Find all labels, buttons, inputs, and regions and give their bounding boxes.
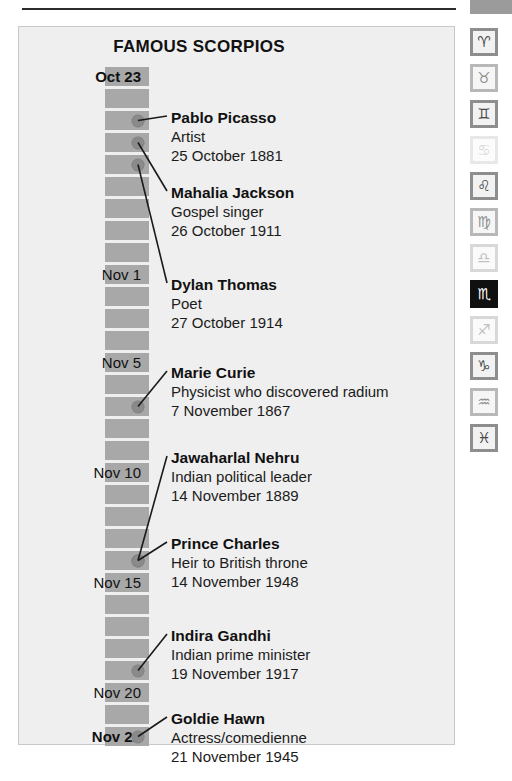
- scorpio-icon-glyph: ♏: [477, 287, 490, 302]
- entry-item: Mahalia JacksonGospel singer26 October 1…: [171, 183, 456, 240]
- top-right-corner-tab: [470, 0, 512, 14]
- sagittarius-icon-glyph: ♐: [477, 323, 490, 338]
- virgo-icon-glyph: ♍: [477, 215, 490, 230]
- famous-scorpios-panel: FAMOUS SCORPIOS Oct 23Nov 1Nov 5Nov 10No…: [18, 26, 455, 745]
- aquarius-icon-glyph: ♒: [477, 395, 490, 410]
- leo-icon-glyph: ♌: [477, 179, 490, 194]
- entry-date: 27 October 1914: [171, 313, 456, 332]
- date-axis: Oct 23Nov 1Nov 5Nov 10Nov 15Nov 20Nov 22: [19, 67, 149, 757]
- aquarius-icon[interactable]: ♒: [470, 388, 498, 416]
- taurus-icon-glyph: ♉: [477, 71, 490, 86]
- cancer-icon[interactable]: ♋: [470, 136, 498, 164]
- entry-item: Pablo PicassoArtist25 October 1881: [171, 108, 456, 165]
- entry-name: Jawaharlal Nehru: [171, 448, 456, 467]
- entry-date: 14 November 1948: [171, 572, 456, 591]
- entry-item: Jawaharlal NehruIndian political leader1…: [171, 448, 456, 505]
- entry-role: Artist: [171, 127, 456, 146]
- aries-icon-glyph: ♈: [477, 35, 490, 50]
- entry-name: Dylan Thomas: [171, 275, 456, 294]
- entry-item: Goldie HawnActress/comedienne21 November…: [171, 709, 456, 766]
- scorpio-icon[interactable]: ♏: [470, 280, 498, 308]
- entry-role: Heir to British throne: [171, 553, 456, 572]
- entry-item: Marie CuriePhysicist who discovered radi…: [171, 363, 456, 420]
- entry-item: Prince CharlesHeir to British throne14 N…: [171, 534, 456, 591]
- date-axis-label: Nov 5: [63, 354, 149, 371]
- date-axis-label: Nov 15: [63, 574, 149, 591]
- entry-name: Mahalia Jackson: [171, 183, 456, 202]
- entry-name: Pablo Picasso: [171, 108, 456, 127]
- capricorn-icon-glyph: ♑: [477, 359, 490, 374]
- zodiac-sign-rail[interactable]: ♈♉♊♋♌♍♎♏♐♑♒♓: [470, 28, 504, 460]
- entry-name: Marie Curie: [171, 363, 456, 382]
- entry-date: 21 November 1945: [171, 747, 456, 766]
- virgo-icon[interactable]: ♍: [470, 208, 498, 236]
- entry-item: Dylan ThomasPoet27 October 1914: [171, 275, 456, 332]
- pisces-icon[interactable]: ♓: [470, 424, 498, 452]
- top-divider-rule: [22, 8, 456, 10]
- libra-icon-glyph: ♎: [477, 251, 490, 266]
- date-axis-label: Nov 22: [63, 728, 149, 745]
- date-axis-label: Oct 23: [63, 68, 149, 85]
- entry-date: 7 November 1867: [171, 401, 456, 420]
- cancer-icon-glyph: ♋: [477, 143, 490, 158]
- capricorn-icon[interactable]: ♑: [470, 352, 498, 380]
- entry-role: Gospel singer: [171, 202, 456, 221]
- date-axis-label: Nov 1: [63, 266, 149, 283]
- entry-date: 25 October 1881: [171, 146, 456, 165]
- pisces-icon-glyph: ♓: [477, 431, 490, 446]
- entry-role: Actress/comedienne: [171, 728, 456, 747]
- entry-role: Indian prime minister: [171, 645, 456, 664]
- entry-role: Physicist who discovered radium: [171, 382, 456, 401]
- entry-item: Indira GandhiIndian prime minister19 Nov…: [171, 626, 456, 683]
- page-title: FAMOUS SCORPIOS: [19, 37, 379, 57]
- sagittarius-icon[interactable]: ♐: [470, 316, 498, 344]
- entry-role: Indian political leader: [171, 467, 456, 486]
- date-axis-label: Nov 20: [63, 684, 149, 701]
- entry-name: Prince Charles: [171, 534, 456, 553]
- date-axis-label: Nov 10: [63, 464, 149, 481]
- gemini-icon[interactable]: ♊: [470, 100, 498, 128]
- entry-name: Goldie Hawn: [171, 709, 456, 728]
- gemini-icon-glyph: ♊: [477, 107, 490, 122]
- entry-date: 19 November 1917: [171, 664, 456, 683]
- entry-name: Indira Gandhi: [171, 626, 456, 645]
- taurus-icon[interactable]: ♉: [470, 64, 498, 92]
- entry-date: 14 November 1889: [171, 486, 456, 505]
- entry-role: Poet: [171, 294, 456, 313]
- aries-icon[interactable]: ♈: [470, 28, 498, 56]
- entry-date: 26 October 1911: [171, 221, 456, 240]
- leo-icon[interactable]: ♌: [470, 172, 498, 200]
- libra-icon[interactable]: ♎: [470, 244, 498, 272]
